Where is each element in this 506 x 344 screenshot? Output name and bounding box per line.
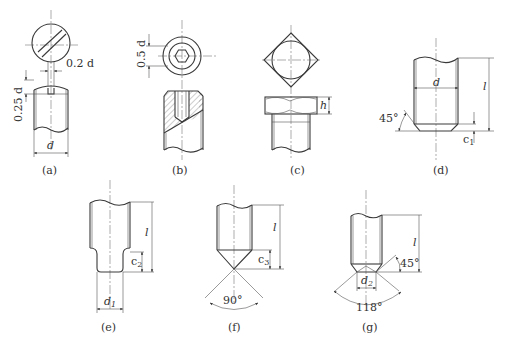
caption-f: (f) <box>228 321 241 334</box>
panel-b-hex-socket-screw: 0.5 d (b) <box>135 20 218 177</box>
length-label-g: l <box>413 236 417 249</box>
length-label-d: l <box>483 80 487 93</box>
diameter-label-e: d1 <box>104 295 116 309</box>
caption-e: (e) <box>101 321 116 334</box>
socket-size-label: 0.5 d <box>135 40 148 68</box>
diameter-label-g: d2 <box>361 274 373 288</box>
caption-a: (a) <box>42 164 57 177</box>
length-label-f: l <box>273 221 277 234</box>
panel-d-flat-point-screw: d l c1 45° (d) <box>379 38 494 177</box>
head-height-label: h <box>320 99 327 112</box>
slot-width-label: 0.2 d <box>66 57 94 70</box>
caption-c: (c) <box>290 164 305 177</box>
cone-label-f: c3 <box>258 253 269 267</box>
slot-depth-label: 0.25 d <box>12 87 25 122</box>
length-label-e: l <box>145 226 149 239</box>
panel-g-cup-point-screw: l 45° d2 118° (g) <box>334 190 422 334</box>
chamfer-label-d: c1 <box>463 133 474 147</box>
caption-g: (g) <box>362 321 378 334</box>
screw-end-types-figure: 0.2 d 0.25 d d (a) 0.5 d <box>0 0 506 344</box>
caption-d: (d) <box>433 164 449 177</box>
panel-a-slotted-screw: 0.2 d 0.25 d d (a) <box>12 10 94 177</box>
panel-e-dog-point-screw: l c2 d1 (e) <box>90 180 154 334</box>
diameter-label-d: d <box>433 76 440 89</box>
panel-f-cone-point-screw: l c3 90° (f) <box>205 185 284 334</box>
angle2-label-g: 118° <box>356 301 383 314</box>
angle-label-g: 45° <box>400 257 420 270</box>
panel-c-square-head-screw: h (c) <box>262 25 332 177</box>
step-label-e: c2 <box>131 255 142 269</box>
angle-label-d: 45° <box>379 112 399 125</box>
angle-label-f: 90° <box>223 294 243 307</box>
caption-b: (b) <box>172 164 188 177</box>
diameter-label: d <box>47 139 54 152</box>
